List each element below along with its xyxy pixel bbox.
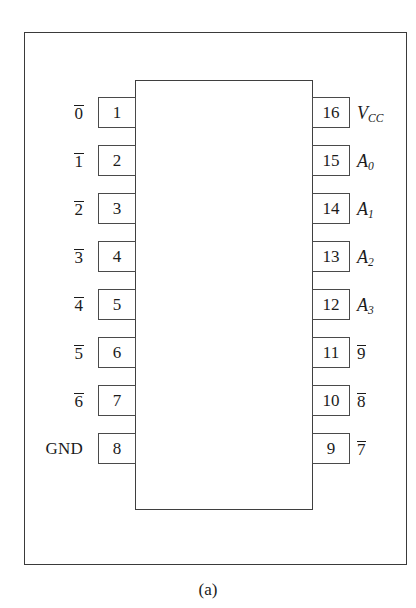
- pin-box-4: 4: [98, 241, 136, 272]
- pin-signal-label-6: 5: [75, 337, 84, 368]
- pin-box-7: 7: [98, 385, 136, 416]
- pin-signal-label-16: VCC: [357, 97, 383, 128]
- pin-box-12: 12: [312, 289, 350, 320]
- pin-number: 13: [323, 248, 340, 265]
- pin-box-15: 15: [312, 145, 350, 176]
- pin-box-6: 6: [98, 337, 136, 368]
- pin-box-11: 11: [312, 337, 350, 368]
- pin-number: 11: [323, 344, 339, 361]
- pin-box-1: 1: [98, 97, 136, 128]
- pin-signal-label-15: A0: [357, 145, 374, 176]
- pin-signal-label-10: 8: [357, 385, 366, 416]
- pin-signal-label-7: 6: [75, 385, 84, 416]
- pin-signal-label-1: 0: [75, 97, 84, 128]
- pin-signal-label-14: A1: [357, 193, 374, 224]
- pin-signal-label-13: A2: [357, 241, 374, 272]
- pin-number: 3: [113, 200, 122, 217]
- pin-box-2: 2: [98, 145, 136, 176]
- pin-number: 2: [113, 152, 122, 169]
- pin-number: 14: [323, 200, 340, 217]
- pin-signal-label-3: 2: [75, 193, 84, 224]
- pin-number: 4: [113, 248, 122, 265]
- pin-signal-label-8: GND: [46, 433, 83, 464]
- pin-signal-label-12: A3: [357, 289, 374, 320]
- pin-box-13: 13: [312, 241, 350, 272]
- pin-signal-label-11: 9: [357, 337, 366, 368]
- pin-signal-label-2: 1: [75, 145, 84, 176]
- pin-box-14: 14: [312, 193, 350, 224]
- pin-box-3: 3: [98, 193, 136, 224]
- ic-package-body: [135, 80, 313, 510]
- pin-number: 9: [327, 440, 336, 457]
- pin-box-16: 16: [312, 97, 350, 128]
- pin-signal-label-5: 4: [75, 289, 84, 320]
- pin-number: 1: [113, 104, 122, 121]
- figure-caption: (a): [0, 580, 416, 600]
- pin-number: 12: [323, 296, 340, 313]
- pin-box-9: 9: [312, 433, 350, 464]
- pin-number: 7: [113, 392, 122, 409]
- pin-box-5: 5: [98, 289, 136, 320]
- pin-number: 10: [323, 392, 340, 409]
- pin-box-10: 10: [312, 385, 350, 416]
- pin-signal-label-9: 7: [357, 433, 366, 464]
- pin-number: 5: [113, 296, 122, 313]
- pin-number: 6: [113, 344, 122, 361]
- pin-box-8: 8: [98, 433, 136, 464]
- pin-number: 15: [323, 152, 340, 169]
- pin-number: 8: [113, 440, 122, 457]
- pin-signal-label-4: 3: [75, 241, 84, 272]
- pinout-figure: 102132435465768GND16VCC15A014A113A212A31…: [0, 0, 416, 608]
- pin-number: 16: [323, 104, 340, 121]
